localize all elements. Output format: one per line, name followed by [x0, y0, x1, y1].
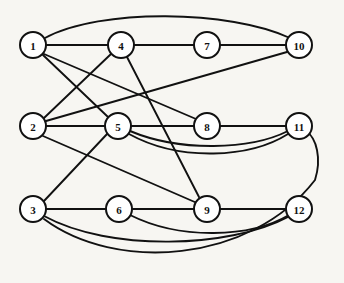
- graph-node-10[interactable]: 10: [286, 32, 312, 58]
- node-label-1: 1: [30, 40, 36, 52]
- node-label-8: 8: [204, 121, 210, 133]
- graph-node-12[interactable]: 12: [286, 196, 312, 222]
- graph-node-2[interactable]: 2: [20, 113, 46, 139]
- graph-node-5[interactable]: 5: [105, 113, 131, 139]
- graph-node-6[interactable]: 6: [106, 196, 132, 222]
- graph-figure: 123456789101112: [0, 0, 344, 283]
- edge-1-10: [45, 16, 290, 38]
- edge-1-8: [44, 54, 196, 119]
- graph-node-1[interactable]: 1: [20, 32, 46, 58]
- edge-4-2: [44, 54, 111, 118]
- graph-node-9[interactable]: 9: [194, 196, 220, 222]
- edge-5-3: [44, 133, 108, 201]
- edge-3-11: [44, 132, 318, 252]
- node-label-5: 5: [115, 121, 121, 133]
- edge-2-10: [46, 52, 287, 121]
- graph-node-8[interactable]: 8: [194, 113, 220, 139]
- edge-1-5: [43, 55, 108, 117]
- graph-canvas: 123456789101112: [0, 0, 344, 283]
- node-label-12: 12: [294, 204, 306, 216]
- node-label-10: 10: [294, 40, 306, 52]
- nodes-layer: 123456789101112: [20, 32, 312, 222]
- edge-2-9: [43, 136, 197, 203]
- node-label-2: 2: [30, 121, 36, 133]
- graph-node-3[interactable]: 3: [20, 196, 46, 222]
- graph-node-7[interactable]: 7: [194, 32, 220, 58]
- graph-node-4[interactable]: 4: [108, 32, 134, 58]
- node-label-6: 6: [116, 204, 122, 216]
- node-label-7: 7: [204, 40, 210, 52]
- graph-node-11[interactable]: 11: [286, 113, 312, 139]
- node-label-9: 9: [204, 204, 210, 216]
- edges-layer: [43, 16, 318, 252]
- node-label-3: 3: [30, 204, 36, 216]
- edge-4-9: [127, 57, 199, 197]
- node-label-11: 11: [294, 121, 304, 133]
- node-label-4: 4: [118, 40, 124, 52]
